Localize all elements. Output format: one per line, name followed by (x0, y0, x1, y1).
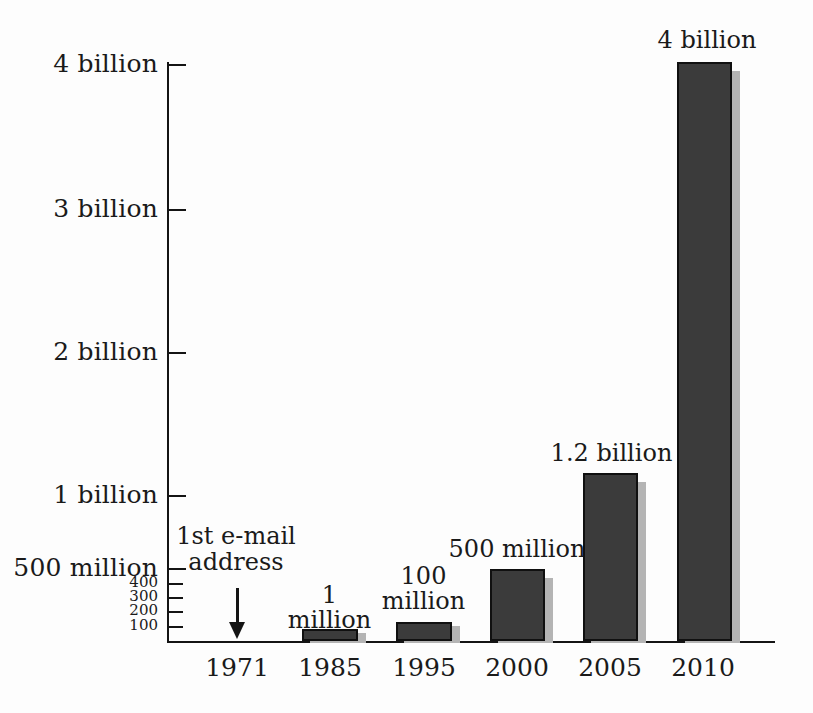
bar-value-label-1985: 1 million (287, 583, 372, 634)
y-tick-4-billion (167, 64, 186, 66)
y-tick-3-billion (167, 209, 186, 211)
annotation-text: 1st e-mail address (176, 524, 296, 576)
y-label-100: 100 (129, 618, 158, 633)
y-label-3-billion: 3 billion (53, 196, 158, 221)
bar-2010[interactable] (677, 62, 732, 641)
bar-2000[interactable] (490, 569, 545, 641)
y-tick-1-billion (167, 495, 186, 497)
y-label-2-billion: 2 billion (53, 339, 158, 364)
y-tick-2-billion (167, 352, 186, 354)
y-tick-300 (167, 597, 183, 599)
annotation-arrow-shaft (236, 588, 239, 624)
bar-value-label-1995: 100 million (381, 564, 466, 615)
bar-value-label-1995-line1: 100 (381, 564, 466, 589)
annotation-line-2: address (176, 550, 296, 576)
bar-1995[interactable] (396, 622, 452, 641)
x-label-2010: 2010 (648, 655, 758, 680)
annotation-arrow-head-icon (229, 622, 245, 639)
y-label-4-billion: 4 billion (53, 51, 158, 76)
bar-chart: 4 billion 3 billion 2 billion 1 billion … (0, 0, 813, 713)
bar-value-label-2000: 500 million (427, 537, 607, 562)
y-tick-400 (167, 583, 183, 585)
annotation-line-1: 1st e-mail (176, 524, 296, 550)
y-tick-200 (167, 611, 183, 613)
bar-value-label-2005: 1.2 billion (524, 441, 699, 466)
bar-value-label-1995-line2: million (381, 589, 466, 614)
bar-value-label-2010: 4 billion (637, 28, 777, 53)
y-tick-100 (167, 626, 183, 628)
x-axis-line (167, 641, 775, 643)
bar-value-label-1985-line2: million (287, 608, 372, 633)
y-label-1-billion: 1 billion (53, 482, 158, 507)
bar-value-label-1985-line1: 1 (287, 583, 372, 608)
bar-2005[interactable] (583, 473, 638, 641)
